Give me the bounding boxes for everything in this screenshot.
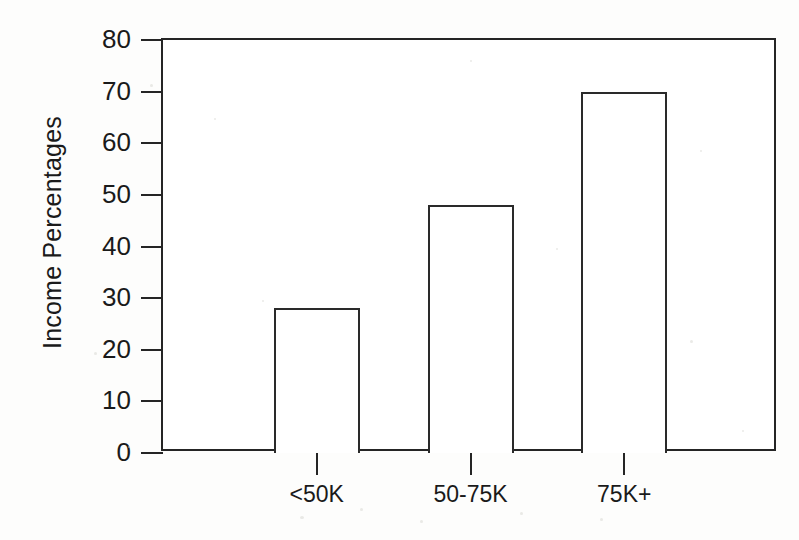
scan-speckle <box>420 520 423 523</box>
y-tick-mark <box>141 452 163 454</box>
y-tick-mark <box>141 297 163 299</box>
y-tick-mark <box>141 91 163 93</box>
scan-speckle <box>94 352 97 355</box>
y-tick-mark <box>141 194 163 196</box>
y-tick-label: 50 <box>59 179 131 209</box>
scan-speckle <box>128 446 130 448</box>
x-tick-label: 75K+ <box>524 481 724 508</box>
y-tick-label: 70 <box>59 76 131 106</box>
y-tick-label: 10 <box>59 385 131 415</box>
y-tick-label: 40 <box>59 231 131 261</box>
scan-speckle <box>300 516 304 519</box>
bar <box>274 308 360 453</box>
scan-speckle <box>520 512 523 515</box>
y-tick-label: 20 <box>59 334 131 364</box>
scan-speckle <box>700 150 702 152</box>
x-tick-mark <box>470 453 472 475</box>
scan-speckle <box>556 248 558 250</box>
y-tick-mark <box>141 349 163 351</box>
y-tick-mark <box>141 39 163 41</box>
x-tick-mark <box>316 453 318 475</box>
scan-speckle <box>214 118 216 120</box>
y-tick-mark <box>141 400 163 402</box>
scan-speckle <box>690 340 693 343</box>
plot-area: 01020304050607080 <50K50-75K75K+ <box>161 38 776 451</box>
scan-speckle <box>150 84 153 87</box>
scan-speckle <box>262 300 264 302</box>
y-tick-label: 30 <box>59 282 131 312</box>
x-tick-mark <box>623 453 625 475</box>
y-tick-mark <box>141 142 163 144</box>
bar <box>581 92 667 453</box>
bar-chart-figure: Income Percentages 01020304050607080 <50… <box>0 0 799 540</box>
y-tick-label: 0 <box>59 437 131 467</box>
bar <box>428 205 514 453</box>
scan-speckle <box>360 508 363 511</box>
scan-speckle <box>742 430 744 432</box>
y-tick-label: 60 <box>59 127 131 157</box>
scan-speckle <box>600 518 603 521</box>
y-tick-mark <box>141 246 163 248</box>
scan-speckle <box>470 60 472 62</box>
y-tick-label: 80 <box>59 24 131 54</box>
